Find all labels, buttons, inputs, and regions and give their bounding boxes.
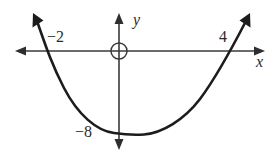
x-intercept-left-label: −2: [47, 29, 64, 45]
x-axis-label: x: [256, 54, 263, 70]
parabola-figure: −2 4 −8 y x: [0, 0, 278, 163]
x-axis-left-arrow-icon: [15, 47, 26, 56]
x-intercept-right-label: 4: [219, 29, 227, 45]
parabola-curve: [37, 21, 246, 135]
y-intercept-label: −8: [75, 124, 92, 140]
y-axis-bottom-arrow-icon: [115, 139, 124, 150]
y-axis-label: y: [133, 12, 140, 28]
y-axis-top-arrow-icon: [115, 13, 124, 24]
